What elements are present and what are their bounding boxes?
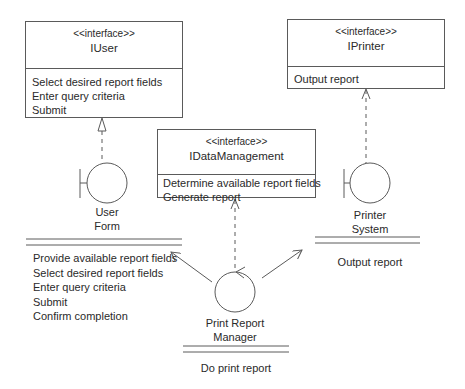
interface-header: <<interface>> IPrinter <box>288 25 444 67</box>
name-line: Manager <box>195 330 275 344</box>
operation: Provide available report fields <box>33 251 177 266</box>
name-line: Form <box>72 219 142 233</box>
operation: Confirm completion <box>33 309 177 324</box>
name-line: Printer <box>335 208 405 222</box>
operation: Select desired report fields <box>32 75 182 89</box>
interface-iuser[interactable]: <<interface>> IUser Select desired repor… <box>25 21 183 118</box>
print-report-manager-operation: Do print report <box>186 361 286 375</box>
operations-list: Output report <box>288 67 444 86</box>
manager-separator <box>183 346 289 352</box>
operation: Generate report <box>163 190 315 204</box>
interface-name: IUser <box>26 41 182 55</box>
interface-name: IPrinter <box>288 39 444 53</box>
interface-name: IDataManagement <box>158 149 315 163</box>
operation: Enter query criteria <box>32 89 182 103</box>
printersystem-separator <box>315 237 420 243</box>
object-name-user-form[interactable]: User Form <box>72 205 142 233</box>
name-line: System <box>335 222 405 236</box>
interface-header: <<interface>> IUser <box>26 27 182 69</box>
name-line: Print Report <box>195 316 275 330</box>
realization-userform-iuser <box>98 118 106 163</box>
operation: Output report <box>294 72 444 86</box>
control-icon <box>215 267 255 312</box>
stereotype-label: <<interface>> <box>26 27 182 41</box>
boundary-icon <box>80 163 127 203</box>
operations-list: Determine available report fields Genera… <box>158 175 315 204</box>
association-manager-printersystem <box>262 250 302 278</box>
object-name-printer-system[interactable]: Printer System <box>335 208 405 236</box>
stereotype-label: <<interface>> <box>288 25 444 39</box>
operation: Enter query criteria <box>33 280 177 295</box>
object-name-print-report-manager[interactable]: Print Report Manager <box>195 316 275 344</box>
interface-header: <<interface>> IDataManagement <box>158 135 315 175</box>
dependency-printersystem-iprinter <box>362 89 370 163</box>
userform-separator <box>26 239 182 245</box>
operation: Select desired report fields <box>33 266 177 281</box>
dependency-manager-idatamanagement <box>231 199 239 268</box>
printer-system-operation: Output report <box>320 255 420 269</box>
interface-idatamanagement[interactable]: <<interface>> IDataManagement Determine … <box>157 129 316 198</box>
operation: Submit <box>33 295 177 310</box>
operation: Submit <box>32 103 182 117</box>
operation: Determine available report fields <box>163 176 315 190</box>
operations-list: Select desired report fields Enter query… <box>26 69 182 117</box>
name-line: User <box>72 205 142 219</box>
user-form-operations: Provide available report fields Select d… <box>33 251 177 324</box>
boundary-icon <box>344 163 390 203</box>
interface-iprinter[interactable]: <<interface>> IPrinter Output report <box>287 19 445 89</box>
stereotype-label: <<interface>> <box>158 135 315 149</box>
